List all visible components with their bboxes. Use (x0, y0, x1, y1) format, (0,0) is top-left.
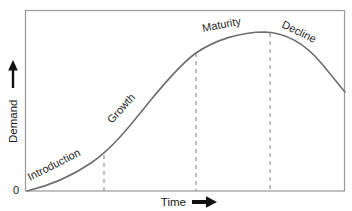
plot-frame (26, 11, 345, 192)
origin-zero-label: 0 (13, 184, 19, 196)
arrow-right-icon (192, 196, 217, 208)
y-axis-label: Demand (7, 100, 19, 143)
product-lifecycle-figure: Demand 0 Time Introduction Growth Maturi… (0, 0, 352, 211)
x-axis-label: Time (161, 196, 186, 208)
arrow-up-icon (8, 60, 18, 88)
lifecycle-chart-svg: Demand 0 Time Introduction Growth Maturi… (0, 0, 352, 211)
